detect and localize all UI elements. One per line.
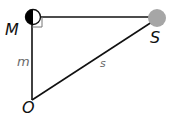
label-O: O (22, 98, 35, 114)
label-s: s (100, 57, 106, 70)
label-M: M (5, 20, 19, 39)
edge-observer-sun (32, 20, 155, 100)
moon-icon (26, 10, 41, 25)
sun-icon (148, 9, 166, 27)
label-S: S (150, 28, 160, 47)
label-m: m (17, 54, 30, 69)
moon-sun-observer-diagram: M m s S O (0, 0, 175, 114)
